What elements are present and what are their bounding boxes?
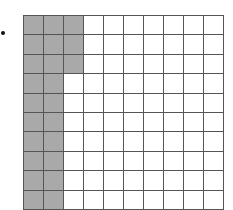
grid-cell-shaded [44,132,64,151]
grid-cell [164,152,184,171]
grid-cell [164,16,184,35]
grid-cell-shaded [44,94,64,113]
grid-cell [164,113,184,132]
grid-cell-shaded [44,55,64,74]
grid-cell [84,113,104,132]
grid-cell [144,16,164,35]
grid-cell [184,94,204,113]
grid-cell [164,132,184,151]
grid-cell-shaded [24,171,44,190]
grid-cell-shaded [64,55,84,74]
grid-cell [144,74,164,93]
grid-cell-shaded [64,16,84,35]
grid-cell [164,55,184,74]
grid-cell [204,94,224,113]
grid-cell-shaded [24,55,44,74]
grid-cell [144,94,164,113]
grid-cell [204,152,224,171]
hundred-grid [23,15,224,210]
grid-cell-shaded [64,35,84,54]
grid-cell-shaded [24,35,44,54]
grid-cell [84,152,104,171]
grid-cell [204,35,224,54]
grid-cell [204,16,224,35]
grid-cell [104,113,124,132]
grid-cell [144,113,164,132]
grid-cell-shaded [24,152,44,171]
grid-cell [144,191,164,210]
grid-cell [184,55,204,74]
grid-cell-shaded [44,191,64,210]
grid-cell [84,132,104,151]
grid-cell [84,16,104,35]
bullet-point [1,31,5,35]
grid-cell-shaded [44,113,64,132]
grid-cell [64,94,84,113]
grid-cell [164,191,184,210]
grid-cell [144,55,164,74]
grid-cell [144,152,164,171]
grid-cell-shaded [24,132,44,151]
grid-cell [184,191,204,210]
grid-cell [104,16,124,35]
grid-cell [124,94,144,113]
grid-cell [84,94,104,113]
grid-cell-shaded [24,191,44,210]
grid-cell [64,191,84,210]
grid-cell [124,74,144,93]
grid-cell [64,113,84,132]
grid-cell [184,35,204,54]
grid-cell [124,113,144,132]
grid-cell [184,74,204,93]
grid-cell [84,74,104,93]
grid-cell [124,55,144,74]
grid-cell [144,132,164,151]
grid-cell [164,35,184,54]
grid-cell [184,16,204,35]
grid-cell [184,152,204,171]
grid-cell [184,113,204,132]
grid-cell [164,74,184,93]
grid-cell [104,94,124,113]
grid-cell-shaded [44,152,64,171]
grid-cell [84,35,104,54]
grid-cell [104,35,124,54]
grid-cell [64,152,84,171]
grid-cell [204,171,224,190]
grid-cell-shaded [24,94,44,113]
grid-cell [104,171,124,190]
grid-cell [204,113,224,132]
grid-cell-shaded [44,16,64,35]
grid-cell [104,191,124,210]
grid-cell [64,171,84,190]
grid-cell [104,74,124,93]
grid-cell [84,191,104,210]
grid-cell [204,74,224,93]
grid-cell-shaded [44,35,64,54]
grid-cell [184,132,204,151]
grid-cell [124,132,144,151]
grid-cell [64,132,84,151]
grid-cell-shaded [44,171,64,190]
grid-cell [204,55,224,74]
grid-cell [124,35,144,54]
grid-cell-shaded [24,113,44,132]
grid-cell [84,171,104,190]
grid-cell [204,132,224,151]
grid-cell [184,171,204,190]
grid-cell [164,94,184,113]
grid-cell [104,132,124,151]
grid-cell-shaded [24,74,44,93]
grid-cell [104,152,124,171]
grid-cell-shaded [44,74,64,93]
grid-cell [144,35,164,54]
grid-cell [124,16,144,35]
grid-cell [144,171,164,190]
grid-cell [124,152,144,171]
grid-cell [84,55,104,74]
grid-cell [64,74,84,93]
grid-cell-shaded [24,16,44,35]
grid-cell [204,191,224,210]
grid-cell [124,191,144,210]
grid-cell [104,55,124,74]
